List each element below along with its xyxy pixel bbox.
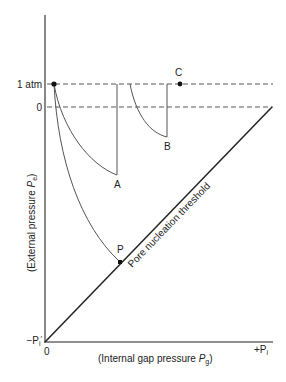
point-p-marker	[118, 260, 122, 264]
threshold-label: Pore nucleation threshold	[126, 180, 213, 269]
label-c: C	[175, 67, 182, 78]
pressure-diagram: A B C P Pore nucleation threshold 1 atm …	[0, 0, 286, 382]
y-tick-negative-pi: −Pi′	[26, 334, 42, 347]
label-a: A	[114, 179, 121, 190]
x-tick-origin: 0	[44, 346, 50, 357]
point-c-marker	[178, 82, 183, 87]
x-axis-label: (Internal gap pressure Pg)	[98, 353, 213, 366]
label-p: P	[117, 244, 124, 255]
y-tick-1atm: 1 atm	[17, 79, 42, 90]
pore-nucleation-threshold-line	[45, 107, 272, 342]
x-tick-positive-pi: +Pi	[254, 344, 269, 356]
label-b: B	[164, 141, 171, 152]
y-tick-zero: 0	[36, 102, 42, 113]
curve-to-p	[54, 84, 120, 262]
curve-to-b	[130, 84, 167, 137]
curve-to-a	[54, 84, 117, 175]
start-point-marker	[51, 81, 56, 86]
y-axis-label: (External pressure Pe)	[26, 174, 38, 272]
